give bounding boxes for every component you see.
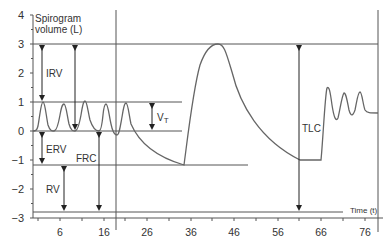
y-tick-label: 2 <box>18 67 24 79</box>
y-tick-label: 4 <box>18 9 24 21</box>
spirogram-chart: 4 3 2 1 0 −1 −2 −3 Spirogram volume (L) … <box>0 0 392 249</box>
y-tick-label: −3 <box>11 212 24 224</box>
irv-label: IRV <box>46 68 63 79</box>
x-tick-label: 56 <box>272 226 284 238</box>
y-axis-title-line2: volume (L) <box>35 24 82 35</box>
tlc-label: TLC <box>302 123 321 134</box>
rv-label: RV <box>46 184 60 195</box>
y-tick-label: 0 <box>18 125 24 137</box>
y-tick-labels: 4 3 2 1 0 −1 −2 −3 <box>11 9 24 224</box>
x-tick-label: 46 <box>228 226 240 238</box>
x-tick-labels: 6 16 26 36 46 56 66 76 <box>57 226 371 238</box>
spirogram-curve <box>33 44 378 165</box>
vt-label-subscript: T <box>164 116 169 125</box>
x-tick-label: 36 <box>185 226 197 238</box>
x-tick-label: 26 <box>141 226 153 238</box>
vt-label: VT <box>157 112 169 125</box>
y-tick-label: 1 <box>18 96 24 108</box>
x-tick-label: 66 <box>315 226 327 238</box>
x-tick-label: 6 <box>57 226 63 238</box>
x-tick-label: 76 <box>359 226 371 238</box>
reference-lines <box>33 10 378 232</box>
y-tick-label: −1 <box>11 154 24 166</box>
y-tick-label: 3 <box>18 38 24 50</box>
annotation-arrows <box>42 48 299 208</box>
erv-label: ERV <box>46 144 67 155</box>
y-axis-title-line1: Spirogram <box>35 13 81 24</box>
y-tick-label: −2 <box>11 183 24 195</box>
y-axis <box>30 15 33 218</box>
x-axis <box>33 218 383 221</box>
frc-label: FRC <box>76 153 97 164</box>
x-tick-label: 16 <box>98 226 110 238</box>
x-axis-title: Time (t) <box>350 206 378 215</box>
